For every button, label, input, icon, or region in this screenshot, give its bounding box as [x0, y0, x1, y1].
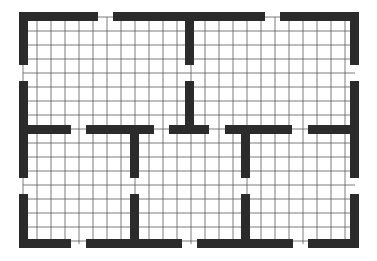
wall-mid-5 — [308, 125, 359, 134]
wall-top-left — [19, 12, 98, 21]
wall-left-upper — [19, 12, 28, 65]
wall-bottom-2-stem — [130, 194, 139, 248]
wall-bottom-1 — [19, 239, 71, 248]
wall-mid-4-stem — [241, 125, 250, 178]
wall-mid-4 — [225, 125, 292, 134]
wall-bottom-4 — [308, 239, 359, 248]
wall-top-center-stem — [185, 12, 194, 65]
wall-mid-2-stem — [130, 125, 139, 178]
wall-bottom-3-stem — [241, 194, 250, 248]
wall-mid-3-stem — [185, 81, 194, 134]
floor-plan — [0, 0, 377, 261]
wall-mid-1 — [19, 125, 71, 134]
wall-top-right — [280, 12, 359, 21]
wall-right-upper — [350, 12, 359, 65]
wall-mid-2 — [86, 125, 154, 134]
